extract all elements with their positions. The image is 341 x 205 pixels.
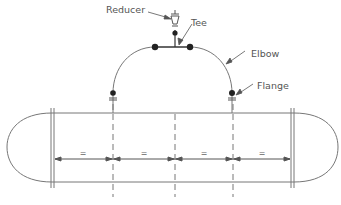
arrow-head [234, 157, 240, 161]
arrow-head [176, 157, 182, 161]
arrow-head [55, 157, 61, 161]
weld-dot-flange-left [110, 90, 116, 96]
vessel-left-head [7, 113, 52, 182]
dim-label-3: = [201, 149, 208, 158]
weld-dots [110, 30, 235, 96]
arrow-head [168, 157, 174, 161]
dim-label-1: = [80, 149, 87, 158]
label-flange: Flange [257, 80, 289, 91]
elbow-right-pipe [190, 47, 232, 93]
piping [113, 30, 232, 113]
elbow-left-pipe [113, 47, 155, 93]
arrow-head [284, 157, 290, 161]
vessel-right-head [294, 113, 338, 182]
arrow-head [226, 157, 232, 161]
weld-dot-tee-right [187, 44, 193, 50]
weld-dot-reducer [172, 30, 177, 35]
weld-dot-tee-left [152, 44, 158, 50]
dim-label-2: = [141, 149, 148, 158]
piping-diagram: = = = = [0, 0, 341, 205]
centerlines [113, 104, 233, 197]
dim-label-4: = [259, 149, 266, 158]
flanges [109, 98, 236, 100]
arrow-head [114, 157, 120, 161]
weld-dot-flange-right [229, 90, 235, 96]
dimension-line [55, 157, 290, 161]
label-tee: Tee [190, 17, 207, 28]
vessel [7, 108, 338, 188]
label-elbow: Elbow [251, 48, 279, 59]
reducer-icon [171, 10, 179, 26]
arrow-head [106, 157, 112, 161]
label-reducer: Reducer [106, 4, 145, 15]
